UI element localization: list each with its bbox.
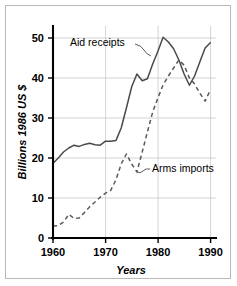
y-axis-tick-labels: 0 10 20 30 40 50	[32, 32, 44, 244]
x-axis-title: Years	[116, 264, 146, 276]
vertical-gridlines	[106, 26, 211, 238]
axis-spines	[52, 26, 216, 239]
y-tick-label: 10	[32, 192, 44, 204]
x-tick-label: 1980	[146, 246, 170, 258]
y-tick-label: 20	[32, 152, 44, 164]
y-tick-label: 50	[32, 32, 44, 44]
horizontal-gridlines	[53, 38, 216, 238]
x-tick-label: 1960	[41, 246, 65, 258]
series-arms-imports	[53, 60, 210, 226]
y-tick-label: 40	[32, 72, 44, 84]
y-tick-label: 0	[38, 232, 44, 244]
y-tick-label: 30	[32, 112, 44, 124]
annotation-aid-receipts-leader	[135, 44, 151, 56]
annotation-arms-imports-leader	[137, 169, 150, 173]
annotation-aid-receipts: Aid receipts	[70, 36, 125, 48]
chart-figure: 0 10 20 30 40 50 1960 1970 1980 1990 Yea…	[0, 0, 237, 286]
series-aid-receipts	[53, 37, 210, 163]
x-tick-label: 1970	[93, 246, 117, 258]
line-chart: 0 10 20 30 40 50 1960 1970 1980 1990 Yea…	[0, 0, 237, 286]
y-axis-title: Billions 1986 US $	[16, 84, 28, 180]
annotation-arms-imports: Arms imports	[152, 162, 214, 174]
x-axis-tick-labels: 1960 1970 1980 1990	[41, 246, 223, 258]
x-tick-label: 1990	[198, 246, 222, 258]
